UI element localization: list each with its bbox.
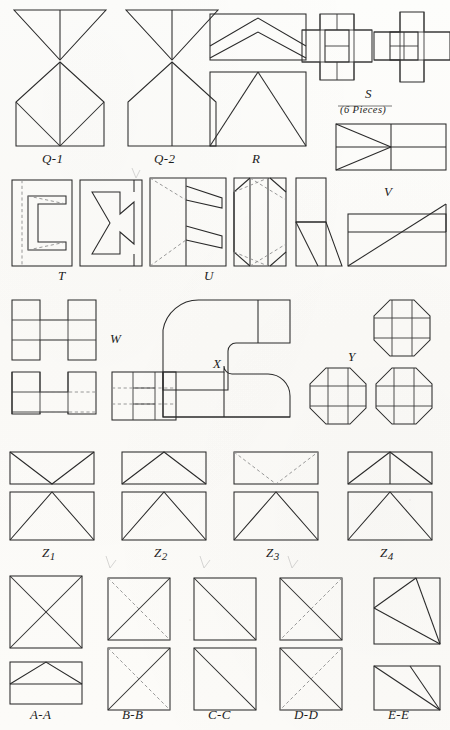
figure-v-upper — [336, 124, 446, 170]
label-x: X — [212, 356, 222, 371]
figure-v: V — [296, 178, 446, 266]
label-dd: D-D — [293, 707, 319, 722]
label-bb: B-B — [122, 707, 143, 722]
label-q2: Q-2 — [154, 151, 176, 166]
figure-z4: Z4 — [348, 452, 432, 562]
figure-z2: Z2 — [122, 452, 206, 562]
figure-t: T — [12, 180, 142, 283]
figure-x: X — [163, 300, 290, 417]
label-r: R — [251, 151, 260, 166]
label-z2: Z2 — [154, 545, 168, 562]
figure-y: Y — [310, 300, 432, 424]
figure-r: R — [210, 14, 306, 166]
figure-ee: E-E — [374, 578, 440, 722]
figure-cc: C-C — [194, 578, 256, 722]
dissection-plate-drawing: Q-1 Q-2 R — [0, 0, 450, 730]
label-v: V — [384, 184, 394, 199]
label-aa: A-A — [29, 707, 51, 722]
figure-w: W — [12, 300, 176, 420]
label-ee: E-E — [387, 707, 409, 722]
figure-aa: A-A — [10, 576, 82, 722]
label-w: W — [110, 331, 122, 346]
label-cc: C-C — [208, 707, 231, 722]
pencil-guide-marks — [106, 168, 298, 568]
figure-s: S (6 Pieces) — [302, 12, 450, 116]
label-z3: Z3 — [266, 545, 280, 562]
figure-q1: Q-1 — [14, 10, 106, 166]
label-t: T — [58, 268, 66, 283]
figure-q2: Q-2 — [126, 10, 218, 166]
label-u: U — [204, 268, 215, 283]
figure-u: U — [150, 178, 286, 283]
figure-dd: D-D — [280, 578, 342, 722]
figure-bb: B-B — [108, 578, 170, 722]
label-q1: Q-1 — [42, 151, 63, 166]
paper-specks — [59, 239, 410, 621]
label-z4: Z4 — [380, 545, 394, 562]
figure-z1: Z1 — [10, 452, 94, 562]
label-y: Y — [348, 349, 357, 364]
figure-z3: Z3 — [234, 452, 318, 562]
label-z1: Z1 — [42, 545, 56, 562]
label-s: S — [365, 86, 372, 101]
